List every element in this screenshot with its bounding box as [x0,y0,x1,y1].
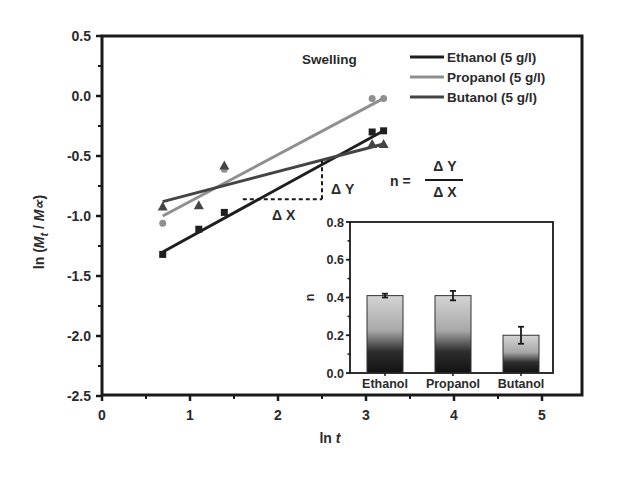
inset-y-tick-label: 0.8 [327,216,344,230]
swelling-label: Swelling [302,52,357,67]
formula-denominator: Δ X [433,184,457,200]
chart-canvas: 0.50.0-0.5-1.0-1.5-2.0-2.5 012345 Δ YΔ X… [0,0,617,485]
bar-ethanol [367,296,403,373]
legend-entry: Butanol (5 g/l) [447,90,537,105]
inset-y-tick-label: 0.0 [327,367,344,381]
inset-x-tick-label: Ethanol [362,377,408,391]
square-marker [221,209,228,216]
y-axis-title: ln (Mt / M∝) [31,195,50,269]
y-tick-label: -1.5 [67,268,91,284]
formula-numerator: Δ Y [433,158,457,174]
delta-y-label: Δ Y [331,181,355,197]
inset-bar-chart: 0.80.60.40.20.0nEthanolPropanolButanol [303,216,553,392]
x-tick-label: 0 [98,407,106,423]
inset-y-tick-label: 0.6 [327,253,344,267]
square-marker [195,226,202,233]
delta-x-label: Δ X [272,207,296,223]
legend: Ethanol (5 g/l)Propanol (5 g/l)Butanol (… [410,50,545,105]
inset-x-tick-label: Butanol [498,377,545,391]
triangle-marker [194,200,204,209]
square-marker [380,127,387,134]
x-tick-label: 1 [186,407,194,423]
y-tick-label: 0.0 [72,88,92,104]
inset-x-tick-label: Propanol [426,377,480,391]
x-tick-label: 5 [538,407,546,423]
formula-lhs: n = [390,173,411,189]
square-marker [159,251,166,258]
y-tick-label: -2.5 [67,388,91,404]
y-tick-label: -0.5 [67,148,91,164]
x-tick-label: 3 [362,407,370,423]
triangle-marker [219,161,229,170]
inset-y-axis-title: n [303,294,317,302]
triangle-marker [158,201,168,210]
circle-marker [380,95,387,102]
y-axis: 0.50.0-0.5-1.0-1.5-2.0-2.5 [67,28,102,404]
y-tick-label: -1.0 [67,208,91,224]
legend-entry: Propanol (5 g/l) [447,70,545,85]
slope-triangle: Δ YΔ X [243,161,355,223]
legend-entry: Ethanol (5 g/l) [447,50,536,65]
x-axis: 012345 [98,395,546,423]
inset-y-tick-label: 0.2 [327,329,344,343]
circle-marker [159,220,166,227]
slope-formula: n =Δ YΔ X [390,158,463,200]
x-tick-label: 2 [274,407,282,423]
x-tick-label: 4 [450,407,458,423]
circle-marker [369,95,376,102]
inset-y-tick-label: 0.4 [327,291,344,305]
y-tick-label: -2.0 [67,328,91,344]
x-axis-title: ln t [319,430,341,446]
bar-propanol [435,296,471,373]
square-marker [369,129,376,136]
y-tick-label: 0.5 [72,28,92,44]
